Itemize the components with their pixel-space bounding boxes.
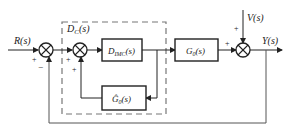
diagram-canvas: DC(s) R(s) + − + + DIMC(s) G0(s) + (0, 0, 288, 135)
sum3-sign-top: + (234, 24, 239, 33)
inner-feedback-return (81, 57, 102, 98)
disturbance-input-label: V(s) (247, 12, 264, 24)
output-label: Y(s) (262, 35, 279, 47)
inner-feedback-branch (146, 50, 157, 98)
sum1-sign-left: + (32, 55, 37, 64)
sum2-sign-left: + (66, 55, 71, 64)
sum3-sign-left: + (225, 39, 230, 48)
block-diagram: DC(s) R(s) + − + + DIMC(s) G0(s) + (0, 0, 288, 135)
sum1-sign-bottom: − (38, 62, 43, 72)
controller-group-label: DC(s) (66, 23, 90, 36)
summing-junction-1 (39, 43, 53, 57)
summing-junction-3 (236, 43, 250, 57)
sum2-sign-bottom: + (72, 65, 77, 74)
g0hat-block-label: Ĝ0(s) (112, 94, 131, 105)
g0-block-label: G0(s) (186, 46, 205, 57)
reference-input-label: R(s) (13, 35, 31, 47)
summing-junction-2 (73, 43, 87, 57)
